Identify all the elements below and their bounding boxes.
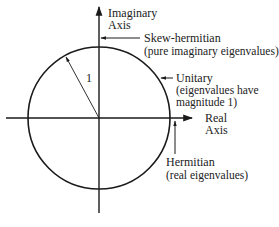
skew-hermitian-label-line1: Skew-hermitian bbox=[144, 31, 221, 45]
hermitian-label-line2: (real eigenvalues) bbox=[166, 169, 248, 182]
skew-hermitian-label-line2: (pure imaginary eigenvalues) bbox=[144, 45, 279, 58]
unitary-label-line3: magnitude 1) bbox=[176, 96, 237, 109]
radius-arrow bbox=[66, 57, 99, 118]
complex-plane-diagram: 1 Imaginary Axis Skew-hermitian (pure im… bbox=[0, 0, 279, 227]
hermitian-label-line1: Hermitian bbox=[166, 155, 215, 169]
unitary-label-line1: Unitary bbox=[176, 71, 213, 85]
radius-label: 1 bbox=[86, 71, 92, 85]
real-axis-label-line2: Axis bbox=[205, 123, 228, 137]
imaginary-axis-label-line2: Axis bbox=[108, 18, 131, 32]
